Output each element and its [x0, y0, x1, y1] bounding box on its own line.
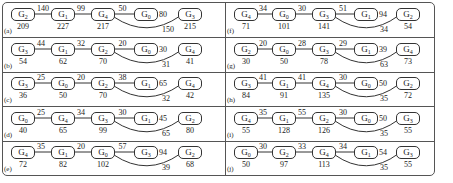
- panel-label: (i): [227, 131, 234, 139]
- node-cost: 99: [91, 126, 115, 135]
- node-box: G1: [272, 77, 296, 90]
- panel-label: (f): [227, 27, 234, 35]
- node-subscript: 4: [326, 83, 329, 89]
- node-subscript: 2: [410, 14, 413, 20]
- node-box: G4: [312, 146, 336, 159]
- panel-label: (b): [4, 62, 12, 70]
- curve-weight: 65: [162, 129, 170, 138]
- node-cost: 215: [178, 22, 202, 31]
- node-box: G0: [11, 112, 35, 125]
- node-box: G2: [11, 8, 35, 21]
- node-subscript: 3: [248, 83, 251, 89]
- node-cost: 72: [11, 160, 35, 169]
- curve-weight: 39: [162, 163, 170, 172]
- panel-label: (j): [227, 165, 234, 173]
- node-cost: 82: [51, 160, 75, 169]
- curve-weight: 35: [380, 163, 388, 172]
- node-box: G4: [91, 8, 115, 21]
- side-weight: 45: [159, 114, 167, 123]
- node-subscript: 3: [192, 14, 195, 20]
- node-subscript: 0: [105, 152, 108, 158]
- node-box: G0: [234, 146, 258, 159]
- edge-weight: 38: [119, 73, 127, 82]
- node-cost: 209: [11, 22, 35, 31]
- node-box: G2: [234, 43, 258, 56]
- node-box: G4: [312, 77, 336, 90]
- node-subscript: 4: [192, 83, 195, 89]
- node-subscript: 1: [286, 83, 289, 89]
- node-cost: 70: [91, 91, 115, 100]
- panel-e: G472G182G0102G3G2683520579439(e): [3, 141, 225, 176]
- node-box: G4: [396, 43, 420, 56]
- node-box: G0: [354, 112, 378, 125]
- node-box: G0: [272, 43, 296, 56]
- node-cost: 217: [91, 22, 115, 31]
- node-subscript: 3: [410, 152, 413, 158]
- node-subscript: 1: [148, 83, 151, 89]
- node-subscript: 2: [105, 83, 108, 89]
- node-box: G2: [91, 43, 115, 56]
- node-subscript: 1: [368, 152, 371, 158]
- edge-weight: 140: [37, 4, 49, 13]
- node-box: G1: [51, 43, 75, 56]
- edge-weight: 20: [77, 142, 85, 151]
- node-cost: 135: [312, 91, 336, 100]
- side-weight: 50: [379, 114, 387, 123]
- node-subscript: 3: [148, 152, 151, 158]
- node-cost: 55: [396, 126, 420, 135]
- edge-weight: 33: [298, 142, 306, 151]
- edge-weight: 30: [298, 4, 306, 13]
- panel-c: G336G050G270G1G4422520386532(c): [3, 72, 225, 107]
- panel-label: (g): [227, 62, 235, 70]
- edge-weight: 51: [339, 4, 347, 13]
- side-weight: 94: [379, 10, 387, 19]
- node-subscript: 1: [286, 118, 289, 124]
- node-box: G3: [134, 146, 158, 159]
- node-box: G0: [51, 77, 75, 90]
- node-subscript: 4: [410, 49, 413, 55]
- node-box: G0: [91, 146, 115, 159]
- node-box: G1: [134, 77, 158, 90]
- node-box: G1: [134, 112, 158, 125]
- node-subscript: 0: [148, 49, 151, 55]
- node-subscript: 0: [25, 118, 28, 124]
- side-weight: 80: [159, 10, 167, 19]
- edge-weight: 44: [37, 39, 45, 48]
- side-weight: 65: [159, 79, 167, 88]
- side-weight: 94: [159, 148, 167, 157]
- node-cost: 141: [312, 22, 336, 31]
- node-box: G2: [396, 77, 420, 90]
- node-cost: 80: [178, 126, 202, 135]
- node-subscript: 1: [65, 152, 68, 158]
- node-box: G2: [396, 8, 420, 21]
- side-weight: 54: [379, 148, 387, 157]
- node-box: G1: [51, 8, 75, 21]
- node-box: G1: [354, 8, 378, 21]
- node-box: G4: [234, 8, 258, 21]
- node-cost: 30: [234, 57, 258, 66]
- node-cost: 41: [178, 57, 202, 66]
- node-box: G4: [51, 112, 75, 125]
- panel-label: (c): [4, 96, 12, 104]
- edge-weight: 28: [298, 39, 306, 48]
- node-subscript: 2: [248, 49, 251, 55]
- node-box: G4: [178, 43, 202, 56]
- node-cost: 71: [234, 22, 258, 31]
- node-box: G1: [354, 43, 378, 56]
- node-subscript: 1: [65, 49, 68, 55]
- node-box: G2: [272, 146, 296, 159]
- panel-label: (a): [4, 27, 12, 35]
- panel-label: (h): [227, 96, 235, 104]
- edge-weight: 29: [339, 39, 347, 48]
- node-subscript: 2: [410, 83, 413, 89]
- node-subscript: 0: [286, 49, 289, 55]
- node-subscript: 2: [326, 118, 329, 124]
- curve-weight: 63: [380, 60, 388, 69]
- node-subscript: 2: [192, 118, 195, 124]
- node-subscript: 2: [286, 152, 289, 158]
- node-cost: 78: [312, 57, 336, 66]
- side-weight: 30: [159, 45, 167, 54]
- edge-weight: 55: [298, 108, 306, 117]
- edge-weight: 20: [259, 39, 267, 48]
- edge-weight: 30: [339, 108, 347, 117]
